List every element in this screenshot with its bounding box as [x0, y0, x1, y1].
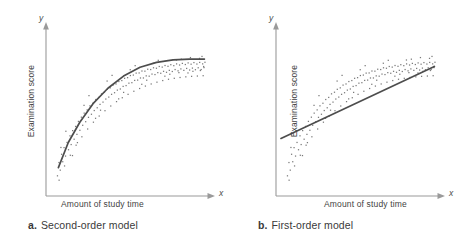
panel-caption: b.First-order model — [258, 219, 353, 231]
panel-caption: a.Second-order model — [28, 219, 138, 231]
scatter-points-first-order — [287, 56, 436, 181]
panel-tag: a. — [28, 219, 37, 231]
x-axis-letter: x — [449, 188, 453, 198]
scatter-points-second-order — [57, 56, 206, 181]
panel-second-order-model: y x Examination score Amount of study ti… — [0, 0, 233, 246]
axes-second-order — [43, 22, 215, 199]
panel-caption-text: First-order model — [272, 219, 354, 231]
regression-curve-second-order — [58, 59, 204, 168]
x-axis-letter: x — [219, 188, 223, 198]
figure-two-regression-models: y x Examination score Amount of study ti… — [0, 0, 467, 246]
panel-caption-text: Second-order model — [41, 219, 138, 231]
y-axis-label: Examination score — [289, 31, 299, 171]
panel-tag: b. — [258, 219, 268, 231]
y-axis-label: Examination score — [26, 31, 36, 171]
x-axis-label: Amount of study time — [61, 199, 144, 209]
x-axis-label: Amount of study time — [324, 199, 407, 209]
y-axis-letter: y — [39, 13, 43, 23]
plot-area-first-order — [233, 0, 466, 212]
panel-first-order-model: y x Examination score Amount of study ti… — [233, 0, 466, 246]
y-axis-letter: y — [269, 13, 273, 23]
